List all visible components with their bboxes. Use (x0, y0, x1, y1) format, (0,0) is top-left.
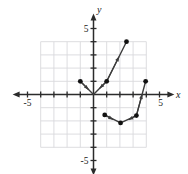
data-point (134, 113, 139, 118)
data-point (143, 79, 148, 84)
data-point (118, 120, 123, 125)
y-tick-label-5: 5 (84, 24, 89, 34)
y-tick-label--5: -5 (81, 156, 89, 166)
x-axis-arrow-right (167, 92, 174, 98)
x-axis-label: x (175, 89, 181, 100)
plotted-curves (80, 42, 145, 123)
y-axis-label: y (96, 4, 102, 15)
x-tick-label--5: -5 (24, 98, 32, 108)
graph-figure: -555-5 x y (0, 0, 188, 174)
coordinate-plane-svg: -555-5 x y (0, 0, 188, 174)
data-point (102, 113, 107, 118)
y-axis-arrow-down (91, 168, 97, 174)
x-tick-label-5: 5 (158, 98, 163, 108)
data-point (78, 79, 83, 84)
data-point (104, 79, 109, 84)
y-axis-arrow-up (91, 14, 97, 21)
x-axis-arrow-left (13, 92, 20, 98)
data-point (124, 39, 129, 44)
